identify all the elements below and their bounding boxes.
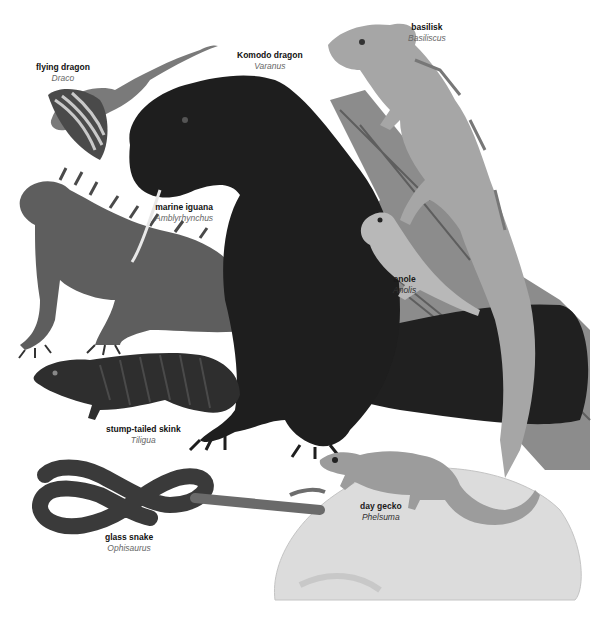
common-name: anole (393, 274, 416, 285)
common-name: flying dragon (36, 62, 90, 73)
common-name: Komodo dragon (237, 50, 303, 61)
label-stump-tailed-skink: stump-tailed skink Tiligua (106, 424, 181, 446)
label-komodo-dragon: Komodo dragon Varanus (237, 50, 303, 72)
label-glass-snake: glass snake Ophisaurus (105, 532, 153, 554)
common-name: glass snake (105, 532, 153, 543)
common-name: basilisk (408, 22, 446, 33)
marine-iguana (20, 181, 250, 350)
genus-name: Basiliscus (408, 33, 446, 44)
genus-name: Draco (36, 73, 90, 84)
genus-name: Ophisaurus (105, 543, 153, 554)
genus-name: Phelsuma (360, 512, 402, 523)
glass-snake (40, 468, 320, 527)
genus-name: Tiligua (106, 435, 181, 446)
common-name: marine iguana (155, 202, 213, 213)
common-name: day gecko (360, 501, 402, 512)
label-basilisk: basilisk Basiliscus (408, 22, 446, 44)
label-flying-dragon: flying dragon Draco (36, 62, 90, 84)
label-day-gecko: day gecko Phelsuma (360, 501, 402, 523)
lizard-illustration (0, 0, 607, 622)
stump-tailed-skink (34, 353, 240, 420)
common-name: stump-tailed skink (106, 424, 181, 435)
label-marine-iguana: marine iguana Amblyrhynchus (155, 202, 213, 224)
label-anole: anole Anolis (393, 274, 416, 296)
genus-name: Anolis (393, 285, 416, 296)
genus-name: Amblyrhynchus (155, 213, 213, 224)
genus-name: Varanus (237, 61, 303, 72)
